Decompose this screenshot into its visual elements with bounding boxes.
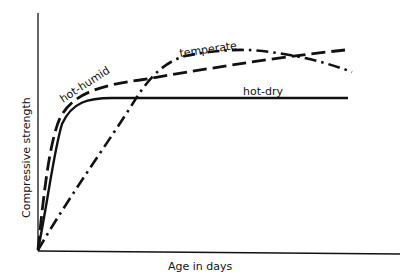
strength-age-chart: hot-humid temperate hot-dry Age in days … [0,0,400,280]
x-axis [38,251,400,254]
y-axis-label: Compressive strength [20,97,33,218]
label-temperate: temperate [179,39,238,60]
label-hot-dry: hot-dry [243,85,283,98]
curve-hot-dry [38,98,348,250]
x-axis-label: Age in days [168,260,233,273]
